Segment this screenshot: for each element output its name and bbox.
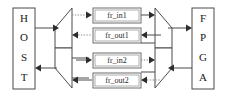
wire-left-lower-mux-to-host — [35, 64, 57, 71]
buffer-fr-in2[interactable]: fr_in2 — [93, 53, 141, 68]
fr-out1-label: fr_out1 — [105, 31, 129, 40]
arrow-right-to-right-mux-lower — [149, 57, 155, 64]
host-letter-4: T — [21, 71, 28, 83]
fr-in1-label: fr_in1 — [107, 11, 127, 20]
wire-fr-in2-to-right-mux — [141, 57, 155, 64]
buffer-fr-out2[interactable]: fr_out2 — [93, 73, 141, 88]
arrow-left-mux-to-host — [35, 64, 41, 71]
wire-left-mux-to-fr-in1 — [72, 12, 92, 19]
buffer-fr-out1[interactable]: fr_out1 — [93, 28, 141, 43]
host-letter-2: O — [20, 31, 28, 43]
fpga-letter-2: P — [200, 31, 206, 43]
arrow-left-to-fr-out1 — [141, 32, 147, 39]
arrow-left-to-left-mux-upper — [72, 32, 78, 39]
wire-fr-in1-to-right-mux — [141, 12, 155, 19]
buffer-fr-in1[interactable]: fr_in1 — [93, 8, 141, 23]
arrow-right-mux-to-fpga — [186, 24, 192, 31]
wire-right-mux-internal-fanin — [141, 43, 155, 72]
arrow-right-to-fr-in1 — [86, 12, 92, 19]
host-block[interactable]: H O S T — [13, 8, 35, 89]
arrow-left-to-fr-out2 — [141, 77, 147, 84]
fr-out2-label: fr_out2 — [105, 76, 129, 85]
diagram-canvas: H O S T F P G A fr_ — [0, 0, 226, 97]
arrow-right-to-right-mux-upper — [149, 12, 155, 19]
fpga-block[interactable]: F P G A — [192, 8, 214, 89]
datapath-diagram: H O S T F P G A fr_ — [0, 0, 226, 97]
left-lower-mux[interactable] — [55, 48, 72, 88]
fpga-letter-1: F — [200, 12, 206, 24]
left-lower-mux-shape — [55, 48, 72, 88]
fpga-letter-3: G — [199, 51, 207, 63]
host-letter-1: H — [20, 12, 28, 24]
fr-in2-label: fr_in2 — [107, 56, 127, 65]
wire-fr-out1-to-left-mux — [72, 32, 92, 39]
host-letter-3: S — [21, 51, 27, 63]
fpga-letter-4: A — [199, 71, 207, 83]
